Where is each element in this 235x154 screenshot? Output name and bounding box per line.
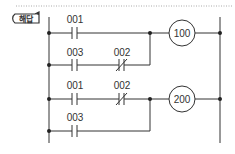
contact-label: 002 [114,47,131,58]
answer-badge: 해답 [13,12,39,24]
rung-2-branch [49,33,150,71]
contact-label: 003 [67,112,84,123]
contact-label: 003 [67,47,84,58]
contact-label: 002 [114,80,131,91]
coil-label: 200 [174,94,191,105]
rung-4-branch [49,99,150,137]
contact-label: 001 [67,80,84,91]
coil-label: 100 [174,28,191,39]
ladder-diagram: 해답 [0,0,235,154]
contact-label: 001 [67,14,84,25]
badge-label: 해답 [19,14,34,24]
